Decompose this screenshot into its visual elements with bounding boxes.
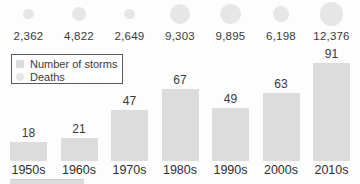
decade-axis-label: 2000s — [256, 163, 307, 177]
storms-value-label: 47 — [104, 94, 155, 108]
storms-bar — [263, 93, 300, 161]
decade-column-1960s: 4,822211960s — [54, 0, 105, 184]
storms-deaths-chart: 2,362181950s4,822211960s2,649471970s9,30… — [0, 0, 360, 184]
decade-axis-label: 1980s — [155, 163, 206, 177]
deaths-bubble — [220, 4, 241, 25]
storms-bar — [212, 108, 249, 161]
legend-label-storms: Number of storms — [30, 58, 117, 70]
decade-column-2010s: 12,376912010s — [306, 0, 357, 184]
decade-column-1970s: 2,649471970s — [104, 0, 155, 184]
decade-axis-label: 1960s — [54, 163, 105, 177]
storms-value-label: 67 — [155, 73, 206, 87]
deaths-value-label: 9,303 — [155, 30, 206, 42]
deaths-value-label: 6,198 — [256, 30, 307, 42]
storms-bar — [10, 142, 47, 161]
storms-value-label: 21 — [54, 122, 105, 136]
storms-swatch-icon — [16, 60, 24, 68]
deaths-bubble — [170, 4, 190, 24]
storms-bar — [313, 63, 350, 161]
deaths-value-label: 4,822 — [54, 30, 105, 42]
deaths-bubble — [320, 2, 343, 25]
legend-row-storms: Number of storms — [16, 58, 122, 70]
decade-column-2000s: 6,198632000s — [256, 0, 307, 184]
deaths-value-label: 2,649 — [104, 30, 155, 42]
decade-axis-label: 2010s — [306, 163, 357, 177]
storms-value-label: 49 — [205, 92, 256, 106]
storms-value-label: 18 — [3, 126, 54, 140]
decade-axis-label: 1990s — [205, 163, 256, 177]
decade-column-1980s: 9,303671980s — [155, 0, 206, 184]
decade-axis-label: 1970s — [104, 163, 155, 177]
legend: Number of storms Deaths — [11, 54, 123, 84]
legend-label-deaths: Deaths — [30, 71, 65, 83]
deaths-value-label: 2,362 — [3, 30, 54, 42]
deaths-bubble — [72, 7, 86, 21]
storms-bar — [111, 110, 148, 161]
storms-bar — [162, 89, 199, 161]
deaths-bubble — [273, 6, 289, 22]
cropped-bar-fragment — [10, 179, 84, 184]
decade-column-1950s: 2,362181950s — [3, 0, 54, 184]
deaths-bubble — [23, 9, 33, 19]
deaths-value-label: 9,895 — [205, 30, 256, 42]
storms-bar — [61, 138, 98, 161]
deaths-swatch-icon — [16, 73, 24, 81]
deaths-value-label: 12,376 — [306, 30, 357, 42]
decade-column-1990s: 9,895491990s — [205, 0, 256, 184]
storms-value-label: 63 — [256, 77, 307, 91]
decade-axis-label: 1950s — [3, 163, 54, 177]
legend-row-deaths: Deaths — [16, 71, 122, 83]
chart-plot-area: 2,362181950s4,822211960s2,649471970s9,30… — [0, 0, 360, 184]
storms-value-label: 91 — [306, 47, 357, 61]
deaths-bubble — [124, 9, 135, 20]
